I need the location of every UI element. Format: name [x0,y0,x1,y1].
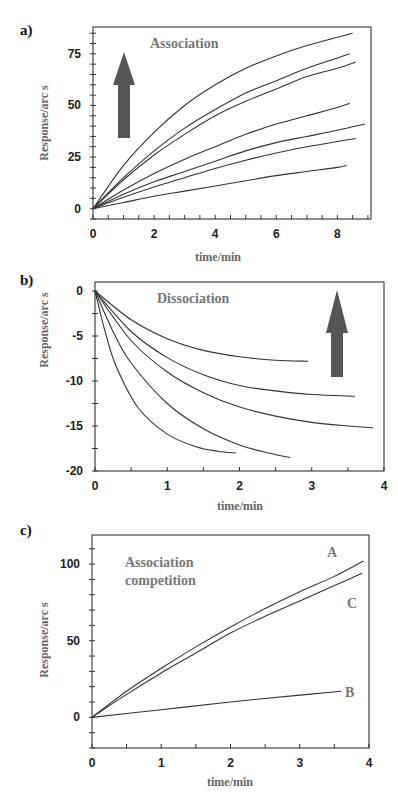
y-tick-label: 0 [73,710,80,724]
y-tick-label: -15 [66,419,84,433]
x-tick-label: 4 [212,227,219,241]
x-tick-label: 3 [308,479,315,493]
chart-panel-association-competition: 01234050100 Association competition A C … [37,535,373,789]
x-tick-label: 1 [164,479,171,493]
data-series-curve7 [93,165,347,208]
x-tick-label: 2 [236,479,243,493]
x-tick-label: 6 [273,227,280,241]
plot-frame [93,27,371,219]
x-axis-title: time/min [217,499,263,513]
data-curves [93,33,365,208]
series-label-a: A [327,545,338,560]
data-series-B [92,691,341,717]
series-label-b: B [345,685,354,700]
x-tick-label: 3 [296,756,303,770]
y-tick-label: 0 [74,202,81,216]
y-tick-label: 0 [76,284,83,298]
panel-title-line2: competition [125,573,196,588]
x-tick-label: 8 [334,227,341,241]
y-tick-label: -20 [66,464,84,478]
y-tick-label: -10 [66,374,84,388]
y-tick-label: -5 [72,329,83,343]
y-axis-title: Response/arc s [37,292,51,368]
figure-canvas: 024680255075 Association time/min Respon… [0,0,398,799]
data-series-curve6 [93,138,356,208]
up-arrow-icon [326,290,348,377]
panel-title-line1: Association [125,555,194,570]
x-tick-label: 0 [90,227,97,241]
x-tick-label: 1 [158,756,165,770]
x-axis-title: time/min [207,775,253,789]
chart-panel-association: 024680255075 Association time/min Respon… [37,27,371,264]
axis-ticks: 01234050100 [60,549,373,770]
x-tick-label: 0 [89,756,96,770]
data-series-curve5 [93,124,365,209]
chart-panel-dissociation: 012340-5-10-15-20 Dissociation time/min … [37,282,388,513]
y-tick-label: 50 [68,98,82,112]
panel-title: Association [150,36,219,51]
x-axis-title: time/min [195,250,241,264]
y-tick-label: 75 [68,47,82,61]
axis-ticks: 024680255075 [68,33,368,241]
x-tick-label: 4 [381,479,388,493]
data-series-curve1 [93,33,353,208]
y-tick-label: 25 [68,150,82,164]
x-tick-label: 2 [227,756,234,770]
up-arrow-icon [113,52,135,138]
y-tick-label: 50 [67,634,81,648]
x-tick-label: 0 [92,479,99,493]
x-tick-label: 4 [366,756,373,770]
panel-title: Dissociation [157,291,230,306]
y-tick-label: 100 [60,557,80,571]
series-label-c: C [347,596,357,611]
x-tick-label: 2 [151,227,158,241]
data-series-curve4 [95,291,290,458]
data-series-C [92,573,362,717]
y-axis-title: Response/arc s [37,85,51,161]
y-axis-title: Response/arc s [37,602,51,678]
